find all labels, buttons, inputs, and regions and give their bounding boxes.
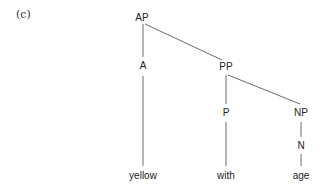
node-n: N — [297, 140, 304, 151]
edge-ap-pp — [145, 24, 222, 60]
node-a: A — [140, 60, 147, 71]
tree-edges — [143, 24, 301, 166]
leaf-age: age — [293, 170, 310, 181]
node-np: NP — [294, 107, 308, 118]
leaf-yellow: yellow — [129, 170, 158, 181]
node-pp: PP — [219, 61, 233, 72]
edge-pp-np — [228, 75, 300, 104]
node-ap: AP — [135, 12, 149, 23]
node-p: P — [223, 107, 230, 118]
syntax-tree: AP A PP P NP N yellow with age — [0, 0, 326, 187]
leaf-with: with — [216, 170, 235, 181]
tree-nodes: AP A PP P NP N yellow with age — [129, 12, 310, 181]
